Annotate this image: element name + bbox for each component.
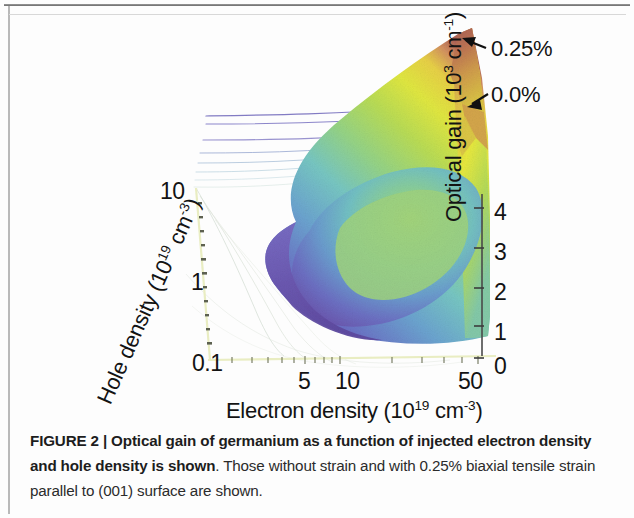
figure-box-top <box>9 14 626 15</box>
z-axis-title-end: ) <box>441 12 466 19</box>
z-axis-title-mid: cm <box>441 31 466 66</box>
x-axis-line <box>208 356 496 360</box>
z-tick-1: 1 <box>494 321 506 344</box>
x-tick-50: 50 <box>458 370 483 393</box>
annotation-unstrained-label: 0.0% <box>491 84 540 106</box>
z-axis-title-exp2: -1 <box>441 19 456 31</box>
hole-tick-1: 1 <box>191 271 203 294</box>
z-tick-0: 0 <box>494 355 506 378</box>
annotation-strained-label: 0.25% <box>491 38 552 60</box>
figure-caption: FIGURE 2 | Optical gain of germanium as … <box>30 428 606 503</box>
x-tick-5: 5 <box>298 370 310 393</box>
hole-tick-0.1: 0.1 <box>192 352 222 375</box>
x-axis-title: Electron density (1019 cm-3) <box>226 399 483 422</box>
x-axis-title-mid: cm <box>429 398 464 423</box>
z-axis-title: Optical gain (103 cm-1) <box>442 12 465 222</box>
surface-plot-svg <box>10 16 626 408</box>
x-axis-title-text: Electron density (10 <box>226 398 414 423</box>
z-tick-4: 4 <box>494 201 506 224</box>
figure-caption-label: FIGURE 2 <box>30 432 99 449</box>
z-axis-title-text: Optical gain (10 <box>441 73 466 222</box>
x-tick-10: 10 <box>335 370 360 393</box>
x-axis-title-end: ) <box>475 398 482 423</box>
z-tick-2: 2 <box>494 281 506 304</box>
figure-page: 0.25% 0.0% 5 10 50 Electron density (101… <box>0 0 634 518</box>
x-axis-title-exp1: 19 <box>414 398 429 413</box>
x-axis-title-exp2: -3 <box>464 398 476 413</box>
z-tick-3: 3 <box>494 241 506 264</box>
page-top-rule <box>4 4 630 6</box>
figure-plot-area: 0.25% 0.0% 5 10 50 Electron density (101… <box>10 16 626 408</box>
z-axis-title-exp1: 3 <box>441 65 456 72</box>
